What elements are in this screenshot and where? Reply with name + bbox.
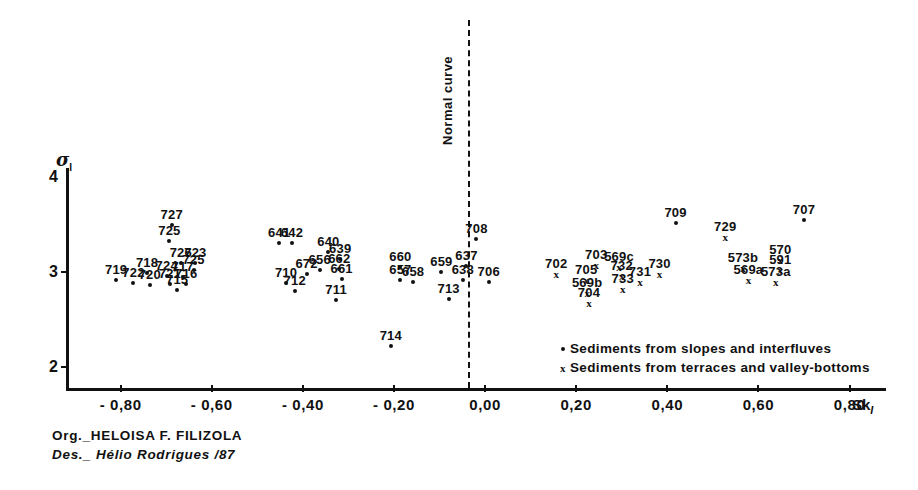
legend-label-terraces: Sediments from terraces and valley-botto… [570, 360, 870, 375]
chart-legend: Sediments from slopes and interfluves x … [556, 339, 870, 377]
data-point-marker [305, 272, 309, 276]
x-axis-title-subscript: I [870, 404, 873, 416]
data-point-marker: x [637, 280, 643, 284]
data-point-marker [487, 280, 491, 284]
data-point-marker: x [620, 287, 626, 291]
data-point-marker [148, 283, 152, 287]
data-point-label: 573a [761, 263, 791, 278]
credits-block: Org._HELOISA F. FILIZOLA Des._ Hélio Rod… [52, 428, 242, 462]
x-tick-mark [120, 385, 122, 392]
normal-curve-label: Normal curve [440, 25, 458, 145]
data-point-marker [398, 278, 402, 282]
data-point-label: 638 [452, 261, 474, 276]
data-point-marker [114, 278, 118, 282]
data-point-marker [290, 241, 294, 245]
x-tick-mark [757, 385, 759, 392]
data-point-label: 727 [161, 206, 183, 221]
x-tick-mark [484, 385, 486, 392]
data-point-marker [461, 278, 465, 282]
y-axis-title: σI [56, 149, 72, 173]
data-point-label: 712 [284, 273, 306, 288]
data-point-label: 702 [545, 256, 567, 271]
data-point-marker [277, 241, 281, 245]
scatter-plot: σI SkI - 0,80- 0,60- 0,40- 0,200,000,200… [0, 0, 918, 490]
x-tick-label: 0,20 [560, 396, 592, 413]
data-point-label: 637 [455, 247, 477, 262]
credit-designer: Des._ Hélio Rodrigues /87 [52, 447, 242, 462]
data-point-marker: x [657, 272, 663, 276]
data-point-label: 711 [325, 281, 347, 296]
legend-item-slopes: Sediments from slopes and interfluves [556, 339, 870, 358]
data-point-label: 704 [578, 284, 600, 299]
data-point-label: 658 [402, 263, 424, 278]
y-tick-mark [61, 271, 68, 273]
data-point-label: 714 [380, 328, 402, 343]
x-axis-line [66, 388, 886, 391]
legend-item-terraces: x Sediments from terraces and valley-bot… [556, 358, 870, 377]
data-point-label: 642 [281, 224, 303, 239]
data-point-label: 709 [664, 205, 686, 220]
data-point-marker [439, 270, 443, 274]
data-point-label: 707 [793, 202, 815, 217]
x-tick-label: 0,80 [834, 396, 866, 413]
data-point-marker: x [722, 235, 728, 239]
data-point-label: 659 [430, 254, 452, 269]
data-point-marker: x [586, 301, 592, 305]
dot-marker-icon [556, 341, 570, 356]
x-tick-label: 0,00 [469, 396, 501, 413]
data-point-label: 729 [714, 219, 736, 234]
data-point-label: 708 [465, 221, 487, 236]
x-tick-label: - 0,80 [100, 396, 142, 413]
y-tick-label: 2 [42, 358, 58, 376]
data-point-marker [175, 288, 179, 292]
normal-curve-line [468, 20, 470, 388]
legend-label-slopes: Sediments from slopes and interfluves [570, 341, 831, 356]
data-point-marker: x [594, 263, 600, 267]
data-point-marker [318, 268, 322, 272]
data-point-label: 730 [648, 256, 670, 271]
x-tick-label: - 0,40 [282, 396, 324, 413]
chart-page: σI SkI - 0,80- 0,60- 0,40- 0,200,000,200… [0, 0, 918, 490]
y-tick-mark [61, 366, 68, 368]
data-point-marker [293, 289, 297, 293]
x-tick-label: 0,40 [652, 396, 684, 413]
y-tick-label: 3 [42, 263, 58, 281]
data-point-marker [167, 239, 171, 243]
x-tick-mark [302, 385, 304, 392]
x-tick-mark [575, 385, 577, 392]
data-point-marker [802, 218, 806, 222]
data-point-marker [334, 298, 338, 302]
x-tick-mark [849, 385, 851, 392]
x-tick-mark [211, 385, 213, 392]
data-point-marker: x [773, 280, 779, 284]
x-tick-label: 0,60 [743, 396, 775, 413]
y-tick-label: 4 [42, 168, 58, 186]
x-tick-label: - 0,60 [191, 396, 233, 413]
y-axis-line [66, 168, 69, 390]
data-point-marker [131, 281, 135, 285]
data-point-label: 725 [158, 223, 180, 238]
data-point-marker [389, 344, 393, 348]
x-tick-mark [666, 385, 668, 392]
data-point-marker [674, 221, 678, 225]
data-point-label: 706 [478, 263, 500, 278]
credit-organizer: Org._HELOISA F. FILIZOLA [52, 428, 242, 443]
data-point-label: 569a [734, 261, 764, 276]
y-axis-ticks: 432 [36, 0, 58, 490]
data-point-marker: x [553, 272, 559, 276]
x-marker-icon: x [556, 360, 570, 375]
x-tick-label: - 0,20 [373, 396, 415, 413]
x-tick-mark [393, 385, 395, 392]
data-point-label: 715 [166, 272, 188, 287]
data-point-marker: x [746, 278, 752, 282]
data-point-marker [474, 237, 478, 241]
y-axis-title-subscript: I [69, 162, 72, 173]
data-point-marker [447, 297, 451, 301]
data-point-label: 661 [330, 260, 352, 275]
data-point-label: 713 [438, 280, 460, 295]
data-point-marker [411, 280, 415, 284]
